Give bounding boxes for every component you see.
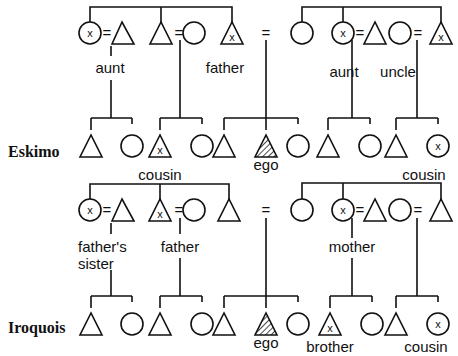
label-cousin-left: cousin	[138, 166, 181, 183]
wife-circle	[183, 199, 205, 221]
label-ego: ego	[253, 156, 278, 173]
marriage-sign: =	[103, 24, 112, 41]
marriage-sign: =	[356, 201, 365, 218]
marriage-sign: =	[356, 24, 365, 41]
cousin-female	[121, 313, 143, 335]
descent-line	[330, 218, 372, 308]
brother-triangle-marked: x	[319, 313, 341, 335]
father-triangle	[218, 199, 240, 221]
descent-line	[160, 40, 202, 130]
cousin-male	[80, 135, 102, 157]
sister-circle	[287, 313, 309, 335]
cousin-female-marked: x	[427, 135, 449, 157]
svg-text:x: x	[340, 27, 346, 39]
uncle-wife-circle-right	[389, 22, 411, 44]
mother-circle	[291, 199, 313, 221]
sibling-line-mother-side	[302, 7, 441, 24]
aunt-husband-triangle	[112, 22, 134, 44]
husband-triangle	[364, 199, 386, 221]
label-uncle: uncle	[380, 63, 416, 80]
fathers-sister-circle-marked: x	[79, 199, 101, 221]
system-label-eskimo: Eskimo	[8, 143, 60, 160]
aunt-circle-marked: x	[79, 22, 101, 44]
iroquois-section: x = x = = x = = father's sister father m…	[8, 183, 452, 355]
label-ego: ego	[253, 334, 278, 351]
svg-text:x: x	[87, 204, 93, 216]
descent-line	[160, 218, 202, 308]
wife-circle-right	[389, 199, 411, 221]
brother-triangle	[213, 135, 235, 157]
father-triangle-marked: x	[221, 22, 243, 44]
uncle-triangle-marked: x	[430, 22, 452, 44]
cousin-male	[317, 135, 339, 157]
marriage-sign: =	[414, 24, 423, 41]
cousin-female-marked: x	[427, 313, 449, 335]
svg-text:x: x	[327, 322, 333, 334]
svg-text:x: x	[438, 31, 444, 43]
sister-circle	[191, 313, 213, 335]
marriage-sign: =	[414, 201, 423, 218]
ego-triangle	[255, 313, 277, 335]
descent-line	[396, 218, 438, 308]
cousin-female	[121, 135, 143, 157]
uncle-wife-circle	[183, 22, 205, 44]
label-cousin-right: cousin	[402, 166, 445, 183]
kinship-diagram: x = = x = x = = x aunt fath	[0, 0, 458, 356]
sibling-line-mother-side	[302, 183, 441, 202]
descent-line	[396, 40, 438, 130]
fathers-sister-husband-triangle	[112, 199, 134, 221]
descent-line	[328, 40, 370, 130]
cousin-female	[191, 135, 213, 157]
brother-triangle	[213, 313, 235, 335]
label-aunt-right: aunt	[329, 63, 359, 80]
brother-triangle	[149, 313, 171, 335]
label-fathers: father's	[78, 238, 127, 255]
system-label-iroquois: Iroquois	[8, 319, 66, 337]
svg-text:x: x	[435, 140, 441, 152]
svg-text:x: x	[87, 27, 93, 39]
label-cousin: cousin	[404, 338, 447, 355]
father-brother-triangle-marked: x	[149, 199, 171, 221]
svg-text:x: x	[157, 208, 163, 220]
marriage-sign: =	[262, 24, 271, 41]
label-father: father	[161, 238, 199, 255]
cousin-male	[385, 313, 407, 335]
cousin-female	[359, 135, 381, 157]
cousin-male-marked: x	[149, 135, 171, 157]
svg-text:x: x	[157, 144, 163, 156]
label-sister: sister	[78, 255, 114, 272]
sister-circle	[287, 135, 309, 157]
marriage-sign: =	[262, 201, 271, 218]
marriage-sign: =	[103, 201, 112, 218]
cousin-male	[385, 135, 407, 157]
svg-text:x: x	[340, 204, 346, 216]
eskimo-section: x = = x = x = = x aunt fath	[8, 7, 452, 183]
mother-circle	[291, 22, 313, 44]
aunt-husband-triangle-right	[364, 22, 386, 44]
svg-text:x: x	[435, 318, 441, 330]
label-father: father	[206, 59, 244, 76]
aunt-circle-marked-right: x	[332, 22, 354, 44]
label-mother: mother	[329, 238, 376, 255]
cousin-male	[80, 313, 102, 335]
label-aunt: aunt	[95, 59, 125, 76]
label-brother: brother	[306, 338, 354, 355]
sister-circle	[361, 313, 383, 335]
svg-text:x: x	[229, 31, 235, 43]
father-brother-triangle	[150, 22, 172, 44]
mother-sister-circle-marked: x	[332, 199, 354, 221]
descent-line	[224, 40, 298, 130]
ego-triangle	[255, 135, 277, 157]
descent-line	[224, 218, 298, 308]
mother-brother-triangle	[430, 199, 452, 221]
